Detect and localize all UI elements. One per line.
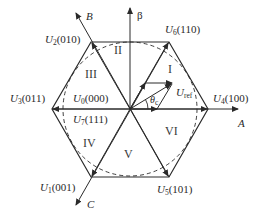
sector-3: III (85, 68, 97, 80)
label-uref: Uref (176, 87, 192, 100)
sector-4: IV (83, 137, 96, 149)
sector-2: II (114, 44, 122, 56)
label-theta: θc (150, 95, 158, 107)
axis-label-c: C (87, 199, 94, 210)
diagram-graphics (0, 0, 260, 219)
sector-1: I (168, 63, 172, 75)
axis-label-a: A (238, 118, 245, 129)
label-u3: U3(011) (10, 93, 45, 106)
component-u6-direction (130, 83, 145, 109)
svpwm-hexagon-diagram: B β A C U6(110) U2(010) U3(011) U0(000) … (0, 0, 260, 219)
label-u0: U0(000) (73, 93, 109, 106)
label-u7: U7(111) (73, 114, 108, 127)
sector-6: VI (165, 125, 178, 137)
axis-label-beta: β (137, 10, 143, 21)
sector-5: V (124, 148, 133, 160)
angle-arc (146, 100, 149, 109)
vector-u5 (130, 109, 168, 176)
label-u1: U1(001) (40, 182, 76, 195)
axis-label-b: B (86, 11, 93, 22)
label-u6: U6(110) (165, 24, 200, 37)
label-u4: U4(100) (213, 93, 249, 106)
label-u2: U2(010) (45, 34, 81, 47)
label-u5: U5(101) (157, 184, 193, 197)
